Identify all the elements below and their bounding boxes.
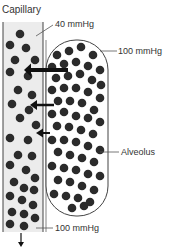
oxygen-molecule [80,202,89,211]
oxygen-molecule [60,84,69,93]
oxygen-molecule [22,44,31,53]
oxygen-molecule [66,97,75,106]
oxygen-molecule [10,178,19,187]
oxygen-molecule [96,118,105,127]
oxygen-molecule [52,74,61,83]
oxygen-molecule [48,162,57,171]
oxygen-molecule [84,62,93,71]
oxygen-molecule [53,122,62,131]
oxygen-molecule [89,130,98,139]
oxygen-molecule [31,214,40,223]
oxygen-molecule [6,192,15,201]
oxygen-molecule [60,136,69,145]
oxygen-molecule [68,204,77,213]
oxygen-molecule [31,56,40,65]
oxygen-molecule [65,123,74,132]
capillary-top-pressure-label: 40 mmHg [55,19,94,29]
oxygen-molecule [50,190,59,199]
oxygen-molecule [20,184,29,193]
oxygen-molecule [54,148,63,157]
oxygen-molecule [60,164,69,173]
oxygen-molecule [64,72,73,81]
oxygen-molecule [72,58,81,67]
oxygen-molecule [14,86,23,95]
capillary-bottom-pressure-label: 100 mmHg [55,223,99,233]
oxygen-molecule [31,174,40,183]
oxygen-molecule [25,106,34,115]
oxygen-molecule [89,51,98,60]
oxygen-molecule [77,126,86,135]
oxygen-molecule [66,178,75,187]
oxygen-molecule [11,56,20,65]
oxygen-molecule [48,136,57,145]
oxygen-molecule [8,208,17,217]
oxygen-molecule [76,70,85,79]
oxygen-molecule [90,158,99,167]
oxygen-molecule [54,97,63,106]
oxygen-molecule [22,166,31,175]
oxygen-molecule [6,220,15,229]
oxygen-molecule [97,81,106,90]
oxygen-molecule [20,210,29,219]
oxygen-molecule [53,51,62,60]
oxygen-molecule [96,66,105,75]
alveolus-label: Alveolus [121,147,155,157]
oxygen-molecule [84,170,93,179]
oxygen-molecule [32,121,41,130]
oxygen-molecule [96,146,105,155]
oxygen-molecule [74,194,83,203]
oxygen-molecule [78,99,87,108]
oxygen-molecule [20,222,29,231]
oxygen-molecule [30,186,39,195]
oxygen-molecule [84,88,93,97]
oxygen-molecule [6,41,15,50]
oxygen-molecule [66,151,75,160]
oxygen-molecule [28,91,37,100]
oxygen-molecule [78,182,87,191]
oxygen-molecule [72,166,81,175]
oxygen-molecule [72,84,81,93]
oxygen-molecule [29,201,38,210]
oxygen-molecule [72,112,81,121]
oxygen-molecule [60,60,69,69]
oxygen-molecule [8,100,17,109]
oxygen-molecule [48,86,57,95]
oxygen-molecule [72,138,81,147]
oxygen-molecule [16,30,25,39]
oxygen-molecule [62,192,71,201]
oxygen-molecule [28,152,37,161]
oxygen-molecule [60,108,69,117]
oxygen-molecule [24,136,33,145]
oxygen-molecule [48,110,57,119]
oxygen-molecule [84,114,93,123]
oxygen-molecule [88,76,97,85]
oxygen-molecule [65,47,74,56]
oxygen-molecule [90,186,99,195]
blood-flow-down-arrow [18,233,24,247]
gas-exchange-diagram [0,0,177,252]
oxygen-molecule [6,161,15,170]
oxygen-molecule [16,114,25,123]
oxygen-molecule [96,94,105,103]
oxygen-molecule [6,68,15,77]
oxygen-molecule [54,176,63,185]
oxygen-molecule [77,43,86,52]
oxygen-molecule [90,106,99,115]
alveolus-pressure-label: 100 mmHg [118,46,162,56]
oxygen-molecule [6,134,15,143]
oxygen-molecule [18,196,27,205]
oxygen-molecule [14,151,23,160]
oxygen-molecule [78,154,87,163]
oxygen-molecule [96,172,105,181]
oxygen-molecule [84,142,93,151]
